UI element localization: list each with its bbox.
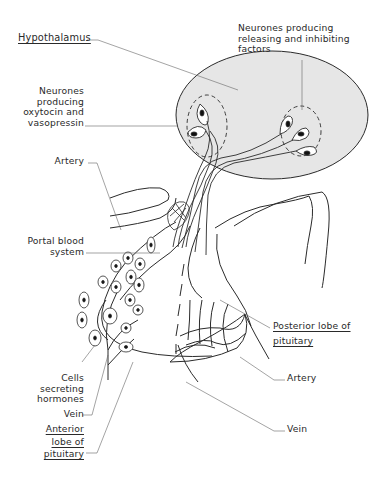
label-line: factors xyxy=(238,44,350,55)
label-line: Cells xyxy=(37,373,84,384)
label-line: Posterior lobe of xyxy=(273,321,351,332)
label-anterior-lobe: Anterior lobe of pituitary xyxy=(44,424,84,460)
label-hypothalamus: Hypothalamus xyxy=(18,33,91,44)
label-cells-secreting-hormones: Cells secreting hormones xyxy=(37,373,84,405)
label-line: system xyxy=(27,247,84,258)
label-artery-lower: Artery xyxy=(287,373,316,384)
label-line: Anterior xyxy=(44,424,84,435)
label-vein-left: Vein xyxy=(64,409,84,420)
label-posterior-lobe: Posterior lobe of pituitary xyxy=(273,321,351,346)
label-line: hormones xyxy=(37,394,84,405)
label-line: Neurones xyxy=(23,86,84,97)
label-oxytocin-neurones: Neurones producing oxytocin and vasopres… xyxy=(23,86,84,128)
label-vein-right: Vein xyxy=(287,424,307,435)
brain-outline xyxy=(234,192,329,288)
label-artery-upper: Artery xyxy=(55,156,84,167)
label-line: pituitary xyxy=(44,449,84,460)
posterior-lobe xyxy=(170,300,269,382)
label-line: pituitary xyxy=(273,336,351,347)
label-line: lobe of xyxy=(44,437,84,448)
label-line: vasopressin xyxy=(23,118,84,129)
label-portal-blood-system: Portal blood system xyxy=(27,236,84,257)
label-line: Portal blood xyxy=(27,236,84,247)
label-line: Neurones producing xyxy=(238,23,350,34)
label-releasing-neurones: Neurones producing releasing and inhibit… xyxy=(238,23,350,55)
